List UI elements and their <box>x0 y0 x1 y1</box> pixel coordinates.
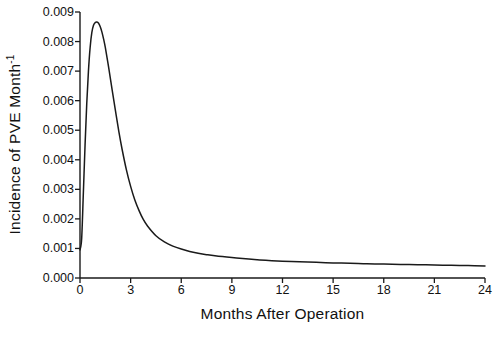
x-axis-label: Months After Operation <box>80 305 485 323</box>
axes <box>80 12 485 278</box>
y-axis-ticks <box>75 12 80 278</box>
data-curve-incidence-of-pve <box>80 22 485 266</box>
x-axis-ticks <box>80 278 485 283</box>
chart-figure: Incidence of PVE Month-1 0.0000.0010.002… <box>0 0 502 340</box>
plot-area <box>0 0 502 340</box>
